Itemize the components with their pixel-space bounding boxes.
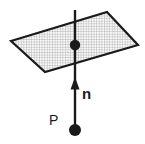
normal-arrowhead-icon <box>71 77 80 90</box>
plane-intersection-dot <box>70 40 80 50</box>
point-p-dot <box>69 124 81 136</box>
figure-canvas: n P <box>0 0 145 144</box>
normal-vector-label: n <box>82 85 91 102</box>
point-label: P <box>49 112 58 128</box>
geometry-figure: n P <box>0 0 145 144</box>
